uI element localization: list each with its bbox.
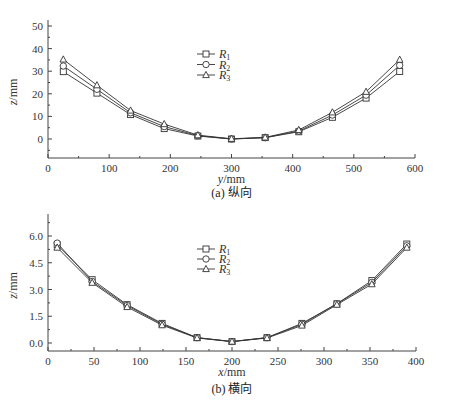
x-tick-label: 200 xyxy=(162,162,179,174)
legend-item-r3: R3 xyxy=(197,68,230,83)
x-tick-label: 400 xyxy=(408,355,425,367)
panel-caption: (b) 横向 xyxy=(212,381,253,396)
triangle-marker-icon xyxy=(396,56,403,62)
triangle-marker-icon xyxy=(329,109,336,115)
x-axis-label: x/mm xyxy=(217,365,246,379)
chart-panel-a: 010020030040050060001020304050z/mmy/mm(a… xyxy=(6,20,424,200)
y-tick-label: 0 xyxy=(38,133,44,145)
triangle-marker-icon xyxy=(203,265,210,271)
series-r3 xyxy=(60,56,403,142)
x-tick-label: 100 xyxy=(101,162,118,174)
x-axis-label: y/mm xyxy=(217,172,246,186)
y-tick-label: 3.0 xyxy=(29,284,43,296)
x-tick-label: 400 xyxy=(284,162,301,174)
square-marker-icon xyxy=(203,246,209,252)
circle-marker-icon xyxy=(203,256,209,262)
x-tick-label: 250 xyxy=(270,355,287,367)
series-r2 xyxy=(54,240,410,345)
x-tick-label: 350 xyxy=(362,355,379,367)
y-tick-label: 1.5 xyxy=(29,310,43,322)
x-tick-label: 150 xyxy=(178,355,195,367)
y-tick-label: 50 xyxy=(32,20,44,32)
figure: 010020030040050060001020304050z/mmy/mm(a… xyxy=(0,0,457,412)
y-tick-label: 10 xyxy=(32,110,44,122)
triangle-marker-icon xyxy=(94,82,101,88)
x-tick-label: 50 xyxy=(89,355,101,367)
y-axis-label: z/mm xyxy=(6,272,20,300)
y-tick-label: 20 xyxy=(32,88,44,100)
triangle-marker-icon xyxy=(60,56,67,62)
y-tick-label: 40 xyxy=(32,43,44,55)
square-marker-icon xyxy=(397,68,403,74)
x-tick-label: 0 xyxy=(45,355,51,367)
y-tick-label: 6.0 xyxy=(29,230,43,242)
chart-panel-b: 0501001502002503003504000.01.53.04.56.0z… xyxy=(6,214,425,396)
circle-marker-icon xyxy=(397,62,403,68)
series-line xyxy=(57,248,407,342)
legend: R1R2R3 xyxy=(197,47,230,83)
triangle-marker-icon xyxy=(203,71,210,77)
x-tick-label: 500 xyxy=(346,162,363,174)
y-axis-label: z/mm xyxy=(6,78,20,106)
circle-marker-icon xyxy=(203,61,209,67)
x-tick-label: 100 xyxy=(132,355,149,367)
square-marker-icon xyxy=(203,51,209,57)
circle-marker-icon xyxy=(60,63,66,69)
legend-item-r3: R3 xyxy=(197,262,230,277)
series-line xyxy=(63,59,399,138)
y-tick-label: 0.0 xyxy=(29,337,43,349)
series-r3 xyxy=(54,244,410,344)
legend: R1R2R3 xyxy=(197,242,230,277)
y-tick-label: 30 xyxy=(32,65,44,77)
x-tick-label: 0 xyxy=(45,162,51,174)
y-tick-label: 4.5 xyxy=(29,257,43,269)
x-tick-label: 300 xyxy=(316,355,333,367)
x-tick-label: 600 xyxy=(407,162,424,174)
panel-caption: (a) 纵向 xyxy=(211,185,251,200)
series-r1 xyxy=(60,68,402,142)
